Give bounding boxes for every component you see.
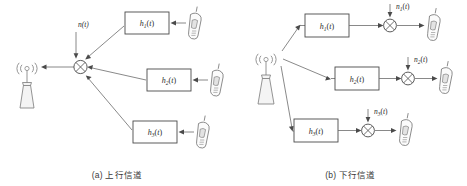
downlink-row-2-wire-box-to-summer xyxy=(379,76,402,81)
uplink-channel-2-wire-to-summer xyxy=(87,65,146,80)
channel-diagram-figure: n(t) h1(t) xyxy=(0,0,467,186)
uplink-channel-2-device-wire xyxy=(193,78,209,83)
downlink-fanout-wire-3 xyxy=(281,66,294,132)
downlink-row-2-wire-summer-to-device xyxy=(415,76,438,81)
downlink-row-2-noise-input xyxy=(406,57,411,71)
downlink-channel-2-noise-label: n2(t) xyxy=(414,55,428,65)
uplink-channel-2-label: h2(t) xyxy=(162,76,177,86)
uplink-channel-3-label: h3(t) xyxy=(148,128,163,138)
uplink-channel-1-phone-icon xyxy=(189,7,202,39)
uplink-channel-3-device-wire xyxy=(179,130,195,135)
downlink-row-2-summing-junction xyxy=(402,72,415,85)
base-station-tower-icon xyxy=(256,54,276,104)
downlink-channel-1-noise-label: n1(t) xyxy=(396,2,410,12)
uplink-output-wire xyxy=(41,65,74,70)
uplink-channel-1-device-wire xyxy=(171,21,187,26)
base-station-tower-icon xyxy=(17,63,37,108)
downlink-row-3-wire-summer-to-device xyxy=(375,128,397,133)
downlink-canvas: h1(t) n1(t) xyxy=(234,0,467,186)
downlink-row-1-wire-box-to-summer xyxy=(349,23,384,28)
uplink-summing-junction xyxy=(74,60,87,73)
uplink-caption: (a) 上行信道 xyxy=(0,168,234,180)
downlink-channel-3-label: h3(t) xyxy=(309,127,324,137)
downlink-fanout-wire-2 xyxy=(283,59,331,80)
uplink-noise-input xyxy=(74,32,79,59)
downlink-channel-1-phone-icon xyxy=(428,8,441,40)
downlink-fanout-wire-1 xyxy=(282,25,301,51)
downlink-channel-3-phone-icon xyxy=(400,113,413,145)
uplink-canvas: n(t) h1(t) xyxy=(0,0,234,186)
downlink-row-1-noise-input xyxy=(388,4,393,18)
uplink-panel: n(t) h1(t) xyxy=(0,0,234,186)
uplink-channel-1-wire-to-summer xyxy=(85,26,124,59)
downlink-channel-3-noise-label: n3(t) xyxy=(374,107,388,117)
downlink-row-3-noise-input xyxy=(366,109,371,123)
downlink-caption: (b) 下行信道 xyxy=(234,168,467,180)
downlink-panel: h1(t) n1(t) xyxy=(234,0,467,186)
downlink-row-3-summing-junction xyxy=(362,124,375,137)
downlink-channel-1-label: h1(t) xyxy=(320,22,335,32)
downlink-channel-2-phone-icon xyxy=(440,61,453,93)
uplink-channel-2-phone-icon xyxy=(211,64,224,96)
uplink-channel-3-wire-to-summer xyxy=(86,75,132,130)
downlink-channel-2-label: h2(t) xyxy=(350,75,365,85)
downlink-row-1-wire-summer-to-device xyxy=(397,23,425,28)
uplink-channel-3-phone-icon xyxy=(197,116,210,148)
uplink-noise-label: n(t) xyxy=(78,20,89,29)
downlink-row-1-summing-junction xyxy=(384,19,397,32)
uplink-channel-1-label: h1(t) xyxy=(140,19,155,29)
downlink-row-3-wire-box-to-summer xyxy=(338,128,362,133)
